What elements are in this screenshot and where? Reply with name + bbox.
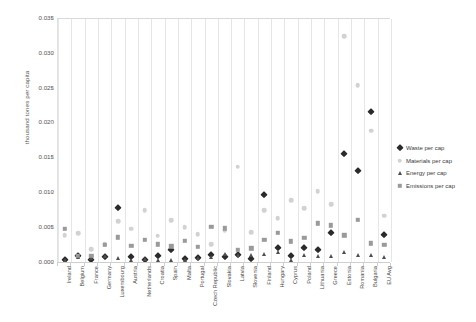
x-tick-label: Romania [359,266,365,289]
x-tick-label: Slovenia [252,266,258,288]
chart-legend: Waste per capMaterials per capEnergy per… [395,142,475,192]
x-tick-label: Hungary [279,266,285,288]
category-separator [258,19,259,262]
data-point-triangle [209,255,213,259]
x-tick-label: Malta [186,266,192,280]
y-axis-ticks: 0.0000.0050.0100.0150.0200.0250.0300.035 [8,0,54,322]
x-tick-mark [243,263,244,266]
data-point-circle [355,83,360,88]
x-tick-mark [150,263,151,266]
category-separator [165,19,166,262]
category-separator [111,19,112,262]
x-tick-label: Slovakia [226,266,232,288]
x-tick-mark [337,263,338,266]
data-point-circle [142,208,147,213]
x-tick-mark [110,263,111,266]
data-point-circle [342,34,347,39]
category-separator [351,19,352,262]
y-tick-mark [51,157,54,158]
data-point-diamond [367,109,375,117]
data-point-circle [116,219,121,224]
x-tick-label: Estonia [346,266,352,285]
x-tick-mark [257,263,258,266]
x-tick-label: Germany [106,266,112,289]
x-tick-label: Portugal [199,266,205,287]
category-separator [58,19,59,262]
x-tick-label: Bulgaria [372,266,378,287]
data-point-triangle [249,253,253,257]
x-tick-mark [204,263,205,266]
data-point-circle [275,216,280,221]
diamond-icon [395,144,404,153]
legend-item-triangle[interactable]: Energy per cap [395,167,475,180]
data-point-circle [196,232,201,237]
y-tick-mark [51,53,54,54]
x-tick-mark [57,263,58,266]
data-point-square [289,239,293,243]
data-point-square [355,218,359,222]
data-point-triangle [382,255,386,259]
data-point-square [342,233,346,237]
data-point-circle [182,225,187,230]
data-point-square [102,243,106,247]
data-point-triangle [63,258,67,262]
category-separator [205,19,206,262]
legend-item-circle[interactable]: Materials per cap [395,155,475,168]
data-point-square [249,246,253,250]
data-point-triangle [143,257,147,261]
data-point-triangle [116,256,120,260]
y-tick-label: 0.015 [14,154,54,160]
data-point-triangle [302,253,306,257]
y-tick-label: 0.020 [14,119,54,125]
data-point-square [89,254,93,258]
data-point-diamond [327,229,335,237]
category-separator [178,19,179,262]
y-tick-mark [51,123,54,124]
square-icon [395,181,404,190]
x-tick-label: EU Avg [386,266,392,285]
category-separator [311,19,312,262]
category-separator [218,19,219,262]
data-point-circle [209,242,214,247]
x-tick-label: Cyprus [292,266,298,284]
data-point-circle [89,247,94,252]
category-separator [284,19,285,262]
data-point-triangle [223,252,227,256]
data-point-square [209,225,213,229]
x-tick-label: Ireland [66,266,72,283]
diamond-glyph [396,144,404,152]
plot-inner [58,19,390,262]
data-point-triangle [289,258,293,262]
data-point-circle [76,231,81,236]
data-point-circle [382,213,387,218]
legend-item-diamond[interactable]: Waste per cap [395,142,475,155]
data-point-square [222,226,226,230]
legend-item-square[interactable]: Emissions per cap [395,180,475,193]
category-separator [138,19,139,262]
data-point-triangle [129,258,133,262]
x-tick-mark [270,263,271,266]
x-tick-mark [390,263,391,266]
data-point-triangle [156,258,160,262]
category-separator [98,19,99,262]
data-point-triangle [276,250,280,254]
x-tick-label: Latvia [239,266,245,281]
data-point-diamond [114,204,122,212]
y-tick-mark [51,227,54,228]
x-tick-label: Poland [306,266,312,284]
x-tick-mark [363,263,364,266]
category-separator [85,19,86,262]
triangle-icon [395,169,404,178]
x-tick-label: Czech Republic [212,266,218,306]
x-tick-mark [124,263,125,266]
x-tick-mark [190,263,191,266]
x-tick-mark [350,263,351,266]
data-point-circle [169,218,174,223]
plot-area [57,18,390,262]
data-point-triangle [329,254,333,258]
x-tick-label: Finland [266,266,272,285]
data-point-triangle [369,253,373,257]
x-tick-label: Austria [132,266,138,284]
x-tick-mark [230,263,231,266]
data-point-square [236,248,240,252]
